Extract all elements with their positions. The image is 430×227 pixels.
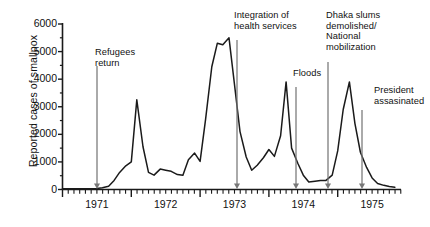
annotation-label-dhaka-slums-national-mobilization: Dhaka slums demolished/ National mobiliz… <box>326 10 380 52</box>
annotation-label-refugees-return: Refugees return <box>95 47 135 68</box>
annotation-label-floods: Floods <box>293 68 321 79</box>
chart-figure: Reported cases of smallpox 0100020003000… <box>0 0 430 227</box>
annotation-arrow-head-dhaka-slums-national-mobilization <box>325 184 331 190</box>
annotation-arrow-head-floods <box>293 184 299 190</box>
annotation-label-president-assasinated: President assasinated <box>374 85 424 106</box>
annotation-label-integration-health-services: Integration of health services <box>234 10 297 31</box>
annotation-arrow-head-integration-health-services <box>234 184 240 190</box>
annotation-arrow-head-president-assasinated <box>359 184 365 190</box>
